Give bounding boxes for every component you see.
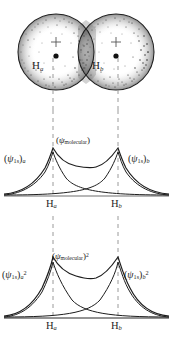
label-psi-1s-b: (ψ1s)b [128,154,150,165]
axis-label-hb-mid: Hb [111,199,122,210]
nucleus-dot-b [113,53,118,58]
panel-electron-density-overlap: Ha Hb [0,0,173,112]
axis-label-hb-bot: Hb [111,321,122,332]
atom-label-b: Hb [92,60,103,72]
label-psi2-1s-a: (ψ1s)a2 [2,270,27,281]
axis-label-ha-bot: Ha [46,321,57,332]
label-psi2-1s-b: (ψ1s)b2 [124,270,149,281]
label-psi-molecular: (ψmolecular) [56,136,90,146]
nucleus-dot-a [53,53,58,58]
overlap-spheres-svg [0,0,173,112]
axis-label-ha-mid: Ha [46,199,57,210]
panel-probability-density: (ψ1s)a2 (ψmolecular)2 (ψ1s)b2 Ha Hb [0,216,173,344]
panel-wavefunction-amplitude: (ψ1s)a (ψmolecular) (ψ1s)b Ha Hb [0,110,173,218]
figure-molecular-orbital-h2: Ha Hb (ψ1s)a (ψmolecular) (ψ1s)b [0,0,173,364]
label-psi2-molecular: (ψmolecular)2 [52,252,89,262]
atom-label-a: Ha [32,60,43,72]
label-psi-1s-a: (ψ1s)a [4,154,26,165]
